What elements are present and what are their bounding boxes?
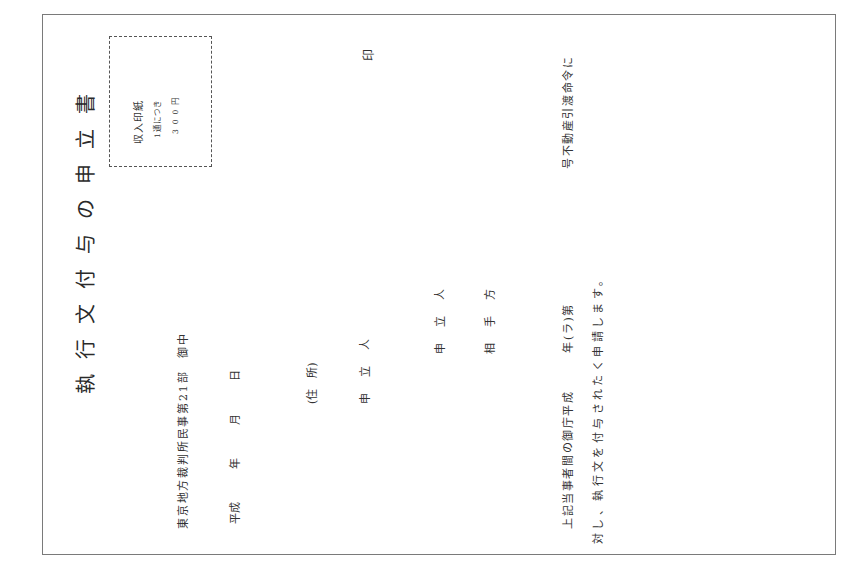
court-addressee: 東京地方裁判所民事第21部 御中 bbox=[178, 332, 189, 529]
revenue-stamp-amount: 300円 bbox=[172, 93, 180, 134]
revenue-stamp-label: 収入印紙 bbox=[134, 100, 144, 144]
address-label: (住 所) bbox=[307, 362, 318, 404]
seal-mark: 印 bbox=[363, 49, 375, 61]
application-form-page: 執行文付与の申立書 収入印紙 1通につき 300円 東京地方裁判所民事第21部 … bbox=[42, 14, 836, 555]
applicant-party-label: 申立人 bbox=[435, 273, 446, 354]
body-text-line2: 対し、執行文を付与されたく申請します。 bbox=[593, 271, 604, 544]
body-text-line1: 上記当事者間の御庁平成 年(ラ)第 bbox=[563, 303, 574, 529]
document-title: 執行文付与の申立書 bbox=[76, 79, 96, 394]
revenue-stamp-box: 収入印紙 1通につき 300円 bbox=[109, 36, 212, 167]
date-field: 平成 年 月 日 bbox=[230, 370, 241, 524]
applicant-signature-label: 申立人 bbox=[360, 323, 371, 404]
revenue-stamp-per-copy: 1通につき bbox=[154, 100, 162, 138]
body-text-line1-continued: 号不動産引渡命令に bbox=[563, 56, 574, 169]
opponent-party-label: 相手方 bbox=[485, 273, 496, 354]
